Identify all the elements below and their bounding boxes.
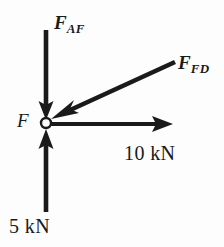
label-f-fd-subscript: FD (191, 61, 210, 76)
label-f-fd-main: F (178, 52, 191, 73)
f-fd-shaft (68, 62, 175, 111)
node-point-circle-icon (41, 118, 51, 128)
force-vector-f-af (39, 30, 54, 120)
force-diagram-figure: FAF FFD F 10 kN 5 kN (0, 0, 224, 247)
label-f-fd: FFD (178, 53, 209, 75)
force-diagram-canvas (0, 0, 224, 247)
label-node-point-f: F (17, 111, 29, 130)
force-vector-10kn (50, 116, 173, 132)
force-vector-f-fd (51, 62, 175, 119)
force-vector-5kn (39, 129, 54, 212)
label-magnitude-5kn: 5 kN (9, 216, 50, 236)
label-f-af-subscript: AF (67, 21, 85, 36)
label-f-af: FAF (54, 13, 85, 35)
label-magnitude-10kn: 10 kN (124, 143, 175, 163)
label-f-af-main: F (54, 12, 67, 33)
